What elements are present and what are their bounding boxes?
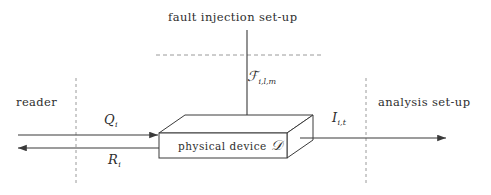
response-label: Ri [108, 152, 121, 167]
query-label: Qi [104, 112, 118, 127]
fault-subscript: i,l,m [258, 77, 276, 86]
query-subscript: i [115, 120, 118, 129]
device-label: physical device 𝒟 [178, 137, 282, 154]
physical-device-box-top [159, 115, 313, 133]
observation-label: Ii,t [332, 110, 346, 125]
observation-symbol: I [332, 110, 338, 125]
script-f-glyph: ℱ [247, 68, 258, 84]
response-subscript: i [118, 160, 121, 169]
figure-canvas: fault injection set-up reader analysis s… [0, 0, 491, 195]
fault-symbol-label: ℱi,l,m [247, 68, 276, 84]
query-symbol: Q [104, 112, 115, 127]
script-d-glyph: 𝒟 [271, 137, 283, 153]
analysis-setup-label: analysis set-up [378, 95, 470, 109]
device-text: physical device [178, 140, 267, 152]
response-symbol: R [108, 152, 118, 167]
figure-title: fault injection set-up [168, 10, 297, 24]
observation-subscript: i,t [338, 118, 346, 127]
reader-label: reader [16, 95, 57, 109]
